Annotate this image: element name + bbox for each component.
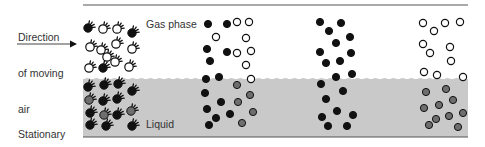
open-molecule-icon xyxy=(419,40,426,47)
open-molecule-icon xyxy=(212,33,219,40)
filled-molecule-icon xyxy=(215,73,222,80)
diagram-canvas xyxy=(0,0,485,147)
open-molecule-icon xyxy=(441,19,448,26)
gray-molecule-icon xyxy=(234,98,241,105)
filled-molecule-icon xyxy=(205,121,212,128)
gray-molecule-icon xyxy=(435,101,442,108)
filled-molecule-icon xyxy=(337,19,344,26)
gray-molecule-icon xyxy=(422,88,429,95)
liquid-phase-region xyxy=(83,79,468,137)
filled-molecule-icon xyxy=(316,18,323,25)
open-molecule-icon xyxy=(446,43,453,50)
filled-molecule-icon xyxy=(332,39,339,46)
open-molecule-icon xyxy=(86,40,97,51)
filled-molecule-icon xyxy=(203,105,210,112)
filled-molecule-icon xyxy=(201,89,208,96)
open-molecule-icon xyxy=(85,61,96,72)
open-molecule-icon xyxy=(420,68,427,75)
filled-molecule-icon xyxy=(322,59,329,66)
open-molecule-icon xyxy=(128,42,139,53)
open-molecule-icon xyxy=(430,27,437,34)
filled-molecule-icon xyxy=(223,20,230,27)
hydrated-molecules xyxy=(84,21,139,130)
filled-molecule-icon xyxy=(333,107,340,114)
gray-molecule-icon xyxy=(249,108,256,115)
filled-molecule-icon xyxy=(343,122,350,129)
open-molecule-icon xyxy=(247,75,254,82)
open-molecule-icon xyxy=(113,22,124,33)
open-molecule-icon xyxy=(419,19,426,26)
gray-molecule-icon xyxy=(238,119,245,126)
filled-molecule-icon xyxy=(204,20,211,27)
liquid-phase-label: Liquid phase xyxy=(146,94,175,147)
gray-molecule-icon xyxy=(425,121,432,128)
open-molecule-icon xyxy=(112,37,123,48)
filled-molecule-icon xyxy=(332,73,339,80)
filled-molecule-icon xyxy=(324,122,331,129)
diagram-stage: Direction of moving air Stationary liqui… xyxy=(0,0,485,147)
open-molecule-icon xyxy=(433,71,440,78)
open-molecule-icon xyxy=(125,60,136,71)
gray-molecule-icon xyxy=(420,104,427,111)
gray-molecule-icon xyxy=(233,81,240,88)
filled-molecule-icon xyxy=(336,57,343,64)
filled-molecule-icon xyxy=(349,111,356,118)
filled-molecule-icon xyxy=(317,80,324,87)
open-molecule-icon xyxy=(242,61,249,68)
filled-molecule-icon xyxy=(325,27,332,34)
filled-molecule-icon xyxy=(212,114,219,121)
filled-molecule-icon xyxy=(347,49,354,56)
open-molecule-icon xyxy=(233,49,240,56)
open-molecule-icon xyxy=(426,49,433,56)
gray-molecule-icon xyxy=(445,112,452,119)
open-molecule-icon xyxy=(242,34,249,41)
filled-molecule-icon xyxy=(316,48,323,55)
filled-molecule-icon xyxy=(223,48,230,55)
gray-molecule-icon xyxy=(432,115,439,122)
gray-molecule-icon xyxy=(449,96,456,103)
open-molecule-icon xyxy=(245,18,252,25)
filled-molecule-icon xyxy=(346,33,353,40)
open-molecule-icon xyxy=(233,18,240,25)
open-molecule-icon xyxy=(459,73,466,80)
filled-molecule-icon xyxy=(99,61,110,72)
filled-molecule-icon xyxy=(226,110,233,117)
filled-molecule-icon xyxy=(202,75,209,82)
filled-molecule-icon xyxy=(217,98,224,105)
filled-molecule-icon xyxy=(128,26,139,37)
filled-molecule-icon xyxy=(322,95,329,102)
gas-liquid-interface xyxy=(83,78,468,82)
filled-molecule-icon xyxy=(339,87,346,94)
gas-phase-label: Gas phase xyxy=(146,18,197,30)
gray-molecule-icon xyxy=(454,123,461,130)
filled-molecule-icon xyxy=(348,70,355,77)
stationary-liquid-label: Stationary liquid phase xyxy=(18,104,65,147)
gray-molecule-icon xyxy=(459,109,466,116)
open-molecule-icon xyxy=(99,22,110,33)
open-molecule-icon xyxy=(456,18,463,25)
filled-molecule-icon xyxy=(203,45,210,52)
open-molecule-icon xyxy=(447,57,454,64)
gray-molecule-icon xyxy=(246,91,253,98)
filled-molecule-icon xyxy=(84,21,95,32)
open-molecule-icon xyxy=(247,47,254,54)
gray-molecule-icon xyxy=(442,85,449,92)
filled-molecule-icon xyxy=(318,113,325,120)
filled-molecule-icon xyxy=(206,57,213,64)
